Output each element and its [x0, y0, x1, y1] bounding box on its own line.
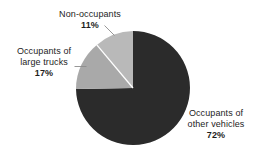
- pie-label-other-vehicles-percent: 72%: [181, 130, 251, 141]
- pie-label-large-trucks-percent: 17%: [2, 68, 86, 79]
- pie-label-large-trucks-text-line1: Occupants of: [2, 46, 86, 57]
- pie-label-other-vehicles-text-line1: Occupants of: [181, 108, 251, 119]
- pie-label-large-trucks-text-line2: large trucks: [2, 57, 86, 68]
- pie-label-other-vehicles: Occupants of other vehicles 72%: [181, 108, 251, 141]
- pie-label-non-occupants: Non-occupants 11%: [44, 9, 136, 31]
- pie-chart: Non-occupants 11% Occupants of large tru…: [0, 0, 253, 153]
- pie-label-other-vehicles-text-line2: other vehicles: [181, 119, 251, 130]
- pie-label-large-trucks: Occupants of large trucks 17%: [2, 46, 86, 79]
- pie-label-non-occupants-percent: 11%: [44, 20, 136, 31]
- pie-label-non-occupants-text: Non-occupants: [44, 9, 136, 20]
